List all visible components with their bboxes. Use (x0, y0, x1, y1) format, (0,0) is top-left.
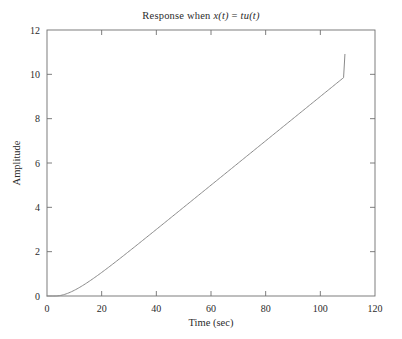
x-tick-label: 20 (97, 303, 107, 314)
y-tick-label: 10 (30, 69, 40, 80)
y-tick-label: 8 (35, 113, 40, 124)
data-series-group (47, 54, 345, 296)
axes-frame (47, 30, 375, 296)
data-curve (47, 54, 345, 296)
x-axis-title: Time (sec) (189, 317, 234, 329)
y-tick-label: 0 (35, 291, 40, 302)
x-tick-label: 0 (45, 303, 50, 314)
x-tick-label: 120 (368, 303, 383, 314)
y-tick-label: 6 (35, 158, 40, 169)
y-tick-labels: 024681012 (30, 25, 40, 302)
axes-frame-rect (47, 30, 375, 296)
x-tick-marks (102, 30, 321, 296)
x-tick-label: 100 (313, 303, 328, 314)
y-tick-label: 2 (35, 246, 40, 257)
plot-area: 020406080100120 024681012 Time (sec) Amp… (0, 0, 402, 339)
y-tick-label: 4 (35, 202, 40, 213)
figure-canvas: Response when x(t) = tu(t) 0204060801001… (0, 0, 402, 339)
x-tick-label: 80 (261, 303, 271, 314)
x-tick-label: 40 (151, 303, 161, 314)
x-tick-labels: 020406080100120 (45, 303, 383, 314)
y-axis-title: Amplitude (11, 140, 22, 185)
x-tick-label: 60 (206, 303, 216, 314)
y-tick-marks (47, 74, 375, 251)
y-tick-label: 12 (30, 25, 40, 36)
